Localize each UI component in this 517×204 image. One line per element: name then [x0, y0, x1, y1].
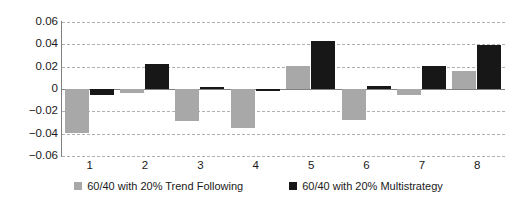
y-axis-tick-label: 0.06 [0, 16, 58, 28]
bar-chart: 0.060.040.020−0.02−0.04−0.06 12345678 60… [0, 0, 517, 204]
x-axis-tick-label: 2 [117, 160, 172, 172]
x-axis-tick-label: 5 [284, 160, 339, 172]
bar-group: 3 [173, 22, 228, 156]
bar [286, 66, 310, 89]
y-axis-tick-label: 0.04 [0, 39, 58, 51]
bar-group: 6 [339, 22, 394, 156]
legend-label: 60/40 with 20% Trend Following [87, 180, 243, 192]
bar-group: 5 [284, 22, 339, 156]
y-axis-tick-label: −0.04 [0, 128, 58, 140]
x-axis-tick-label: 7 [394, 160, 449, 172]
bar [452, 71, 476, 89]
bar [200, 87, 224, 89]
x-axis-tick-label: 3 [173, 160, 228, 172]
legend-item: 60/40 with 20% Multistrategy [289, 180, 443, 192]
bar [65, 89, 89, 133]
plot-area: 0.060.040.020−0.02−0.04−0.06 12345678 [62, 22, 505, 156]
legend-swatch-black-icon [289, 182, 297, 190]
y-axis-tick-label: −0.02 [0, 106, 58, 118]
x-axis-tick-label: 6 [339, 160, 394, 172]
bar [397, 89, 421, 95]
x-axis-tick-label: 8 [450, 160, 505, 172]
bar [231, 89, 255, 128]
bar [477, 45, 501, 89]
chart-legend: 60/40 with 20% Trend Following 60/40 wit… [0, 180, 517, 192]
legend-item: 60/40 with 20% Trend Following [74, 180, 243, 192]
legend-swatch-gray-icon [74, 182, 82, 190]
bar-group: 8 [450, 22, 505, 156]
bar-group: 7 [394, 22, 449, 156]
bar [342, 89, 366, 120]
legend-label: 60/40 with 20% Multistrategy [302, 180, 443, 192]
y-axis-tick-label: 0.02 [0, 61, 58, 73]
y-axis-tick-label: −0.06 [0, 150, 58, 162]
bar [367, 86, 391, 89]
bar [90, 89, 114, 95]
bar [256, 89, 280, 91]
bar-group: 2 [117, 22, 172, 156]
bar [311, 41, 335, 89]
bar [145, 64, 169, 89]
gridline [62, 156, 505, 157]
y-axis-tick-label: 0 [0, 83, 58, 95]
x-axis-tick-label: 1 [62, 160, 117, 172]
bar [175, 89, 199, 121]
bar [120, 89, 144, 93]
bar-group: 1 [62, 22, 117, 156]
bar-group: 4 [228, 22, 283, 156]
bar [422, 66, 446, 89]
x-axis-tick-label: 4 [228, 160, 283, 172]
